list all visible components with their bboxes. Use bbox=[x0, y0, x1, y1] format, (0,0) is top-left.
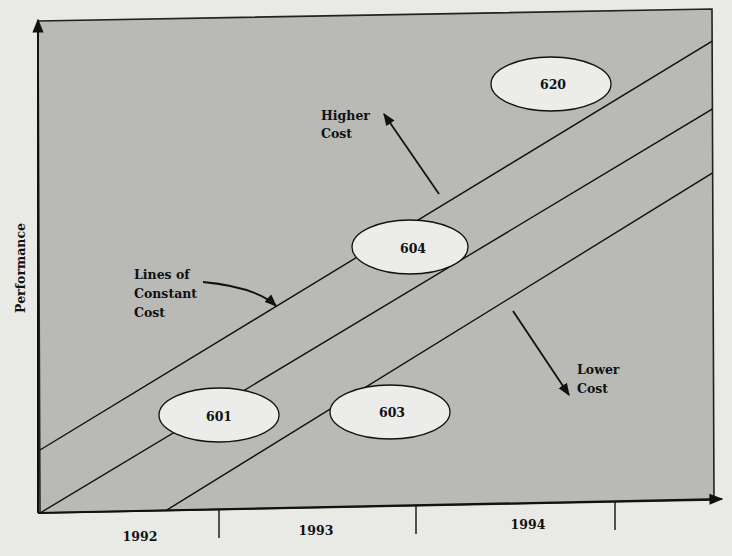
svg-text:620: 620 bbox=[540, 77, 566, 92]
svg-text:603: 603 bbox=[379, 405, 405, 420]
lower-cost-label-line2: Cost bbox=[577, 381, 608, 396]
svg-text:601: 601 bbox=[206, 409, 232, 424]
constant-cost-label-line2: Constant bbox=[134, 286, 197, 301]
constant-cost-label-line1: Lines of bbox=[134, 267, 191, 282]
constant-cost-label-line3: Cost bbox=[134, 305, 165, 320]
node-601: 601 bbox=[159, 388, 279, 442]
diagram-canvas: 1992 1993 1994 Performance 620 604 601 6… bbox=[0, 0, 732, 556]
diagram-figure: 1992 1993 1994 Performance 620 604 601 6… bbox=[0, 0, 732, 556]
lower-cost-label-line1: Lower bbox=[577, 362, 620, 377]
node-603: 603 bbox=[330, 385, 450, 439]
higher-cost-label-line1: Higher bbox=[321, 108, 370, 123]
year-label-1992: 1992 bbox=[123, 529, 158, 544]
svg-text:604: 604 bbox=[400, 241, 426, 256]
node-604: 604 bbox=[352, 220, 468, 274]
year-label-1994: 1994 bbox=[511, 517, 546, 532]
node-620: 620 bbox=[491, 57, 611, 111]
y-axis-label: Performance bbox=[13, 223, 28, 313]
higher-cost-label-line2: Cost bbox=[321, 126, 352, 141]
year-label-1993: 1993 bbox=[299, 523, 334, 538]
